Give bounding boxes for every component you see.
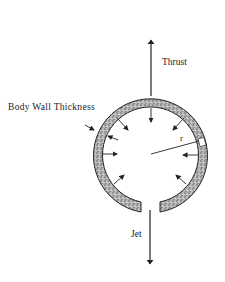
radius-line [151,141,199,154]
thrust-label: Thrust [162,57,187,67]
radius-label: r [180,133,183,143]
body-wall-thickness-label: Body Wall Thickness [8,102,95,112]
jet-propulsion-diagram [0,0,225,282]
jet-label: Jet [131,229,142,239]
